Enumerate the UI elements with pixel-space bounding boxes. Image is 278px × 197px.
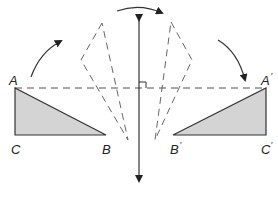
label-C-prime: C [261, 142, 271, 157]
right-arc-arrow-icon [218, 40, 245, 80]
reflected-triangle [173, 88, 266, 135]
prime-C: ′ [271, 140, 273, 150]
left-arc-arrow-icon [31, 41, 61, 77]
prime-A: ′ [271, 71, 273, 81]
original-triangle [15, 88, 106, 135]
right-ghost-triangle [155, 22, 192, 140]
left-ghost-triangle [81, 23, 128, 140]
label-B: B [102, 142, 111, 157]
top-arc-arrow-icon [117, 7, 162, 13]
right-angle-marker [139, 82, 146, 88]
label-C: C [11, 142, 21, 157]
label-A: A [8, 73, 18, 88]
label-B-prime: B [170, 142, 179, 157]
prime-B: ′ [180, 140, 182, 150]
reflection-diagram: A C B A ′ B ′ C ′ [0, 0, 278, 197]
label-A-prime: A [260, 73, 270, 88]
